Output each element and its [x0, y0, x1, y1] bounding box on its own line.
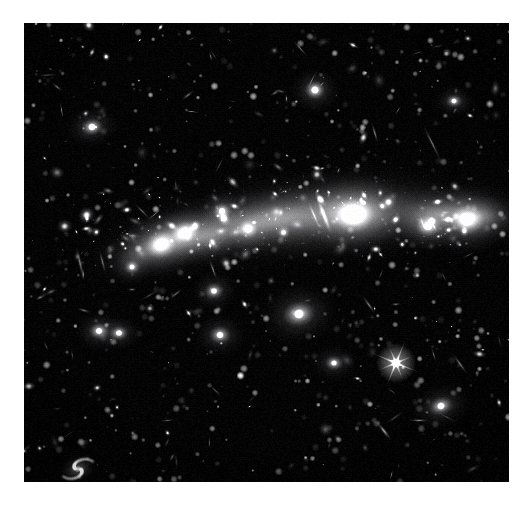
galaxy-cluster-sky-canvas	[24, 23, 509, 482]
image-page: Hubble Space Telescope deep image of a r…	[0, 0, 532, 507]
astronomical-image-frame	[24, 23, 509, 482]
